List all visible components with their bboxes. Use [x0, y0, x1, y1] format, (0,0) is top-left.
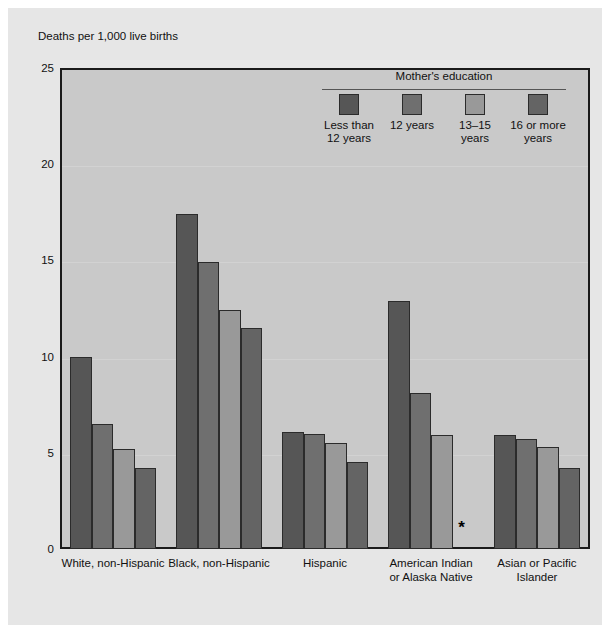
legend-item-label: Less than 12 years: [318, 119, 380, 145]
legend-item: 16 or more years: [507, 94, 569, 145]
chart-sheet: Deaths per 1,000 live births 0510152025 …: [8, 8, 602, 625]
bar: [304, 434, 326, 549]
chart-legend: Mother's education Less than 12 years12 …: [318, 70, 570, 158]
bar: [347, 462, 369, 549]
x-axis-category-label: White, non-Hispanic: [60, 556, 166, 570]
y-axis-tick-label: 0: [48, 543, 54, 555]
legend-item-label: 13–15 years: [444, 119, 506, 145]
x-axis-category-label: American Indian or Alaska Native: [378, 556, 484, 584]
bar: [219, 310, 241, 549]
y-axis-title: Deaths per 1,000 live births: [38, 30, 178, 42]
legend-swatch: [528, 94, 548, 115]
legend-swatch: [402, 94, 422, 115]
bar: [282, 432, 304, 549]
x-axis-category-label: Black, non-Hispanic: [166, 556, 272, 570]
bar: [537, 447, 559, 549]
bar: [176, 214, 198, 549]
bar: [198, 262, 220, 549]
legend-swatch: [465, 94, 485, 115]
y-axis-tick-label: 15: [41, 254, 54, 266]
gridline: [62, 359, 588, 360]
chart-page: Deaths per 1,000 live births 0510152025 …: [0, 0, 610, 633]
y-axis-tick-label: 25: [41, 62, 54, 74]
bar: [494, 435, 516, 549]
x-axis-category-label: Hispanic: [272, 556, 378, 570]
bar: [325, 443, 347, 549]
bar: [241, 328, 263, 549]
x-axis-category-label: Asian or Pacific Islander: [484, 556, 590, 584]
bar: [92, 424, 114, 549]
bar: [70, 357, 92, 549]
legend-item: 12 years: [381, 94, 443, 132]
bar: [516, 439, 538, 549]
gridline: [62, 166, 588, 167]
y-axis-tick-label: 20: [41, 158, 54, 170]
bar: [410, 393, 432, 549]
asterisk-annotation: *: [458, 519, 465, 536]
gridline: [62, 262, 588, 263]
bar: [388, 301, 410, 549]
bar: [113, 449, 135, 549]
bar: [431, 435, 453, 549]
legend-item: 13–15 years: [444, 94, 506, 145]
legend-item-label: 12 years: [381, 119, 443, 132]
legend-item: Less than 12 years: [318, 94, 380, 145]
legend-divider: [322, 89, 566, 90]
y-axis-tick-label: 10: [41, 351, 54, 363]
legend-swatch: [339, 94, 359, 115]
y-axis-tick-label: 5: [48, 447, 54, 459]
y-axis-tick-labels: 0510152025: [18, 68, 54, 549]
bar: [135, 468, 157, 549]
legend-item-label: 16 or more years: [507, 119, 569, 145]
bar: [559, 468, 581, 549]
legend-title: Mother's education: [318, 70, 570, 82]
